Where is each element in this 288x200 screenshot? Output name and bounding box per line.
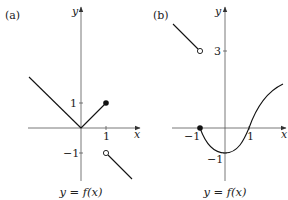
graph-segment-middle (81, 103, 106, 128)
closed-point (103, 100, 109, 106)
y-tick-label-neg1: −1 (207, 153, 223, 166)
graph-segment-right (108, 155, 132, 179)
figure-canvas: (a) y x 1 1 −1 y = f(x) (b) y x 1 −1 3 −… (0, 0, 288, 200)
x-tick-label-1: 1 (103, 130, 110, 143)
y-tick-label-1: 1 (70, 97, 77, 110)
y-tick-label-3: 3 (214, 45, 221, 58)
closed-point (197, 125, 203, 131)
graph-curve (200, 84, 283, 153)
y-axis-label: y (214, 5, 222, 18)
y-axis-label: y (71, 5, 79, 18)
panel-a-label: (a) (5, 9, 20, 22)
x-axis-label: x (134, 128, 141, 141)
graph-segment-left (173, 24, 198, 49)
x-tick-label-1: 1 (247, 130, 254, 143)
caption-b: y = f(x) (202, 185, 246, 199)
panel-b: (b) y x 1 −1 3 −1 y = f(x) (153, 5, 288, 199)
caption-a: y = f(x) (58, 185, 102, 199)
panel-b-label: (b) (153, 9, 169, 22)
x-axis-label: x (281, 128, 288, 141)
open-point (197, 48, 202, 53)
open-point (103, 150, 108, 155)
x-tick-label-neg1: −1 (184, 130, 200, 143)
y-tick-label-neg1: −1 (63, 147, 79, 160)
panel-a: (a) y x 1 1 −1 y = f(x) (5, 5, 141, 199)
